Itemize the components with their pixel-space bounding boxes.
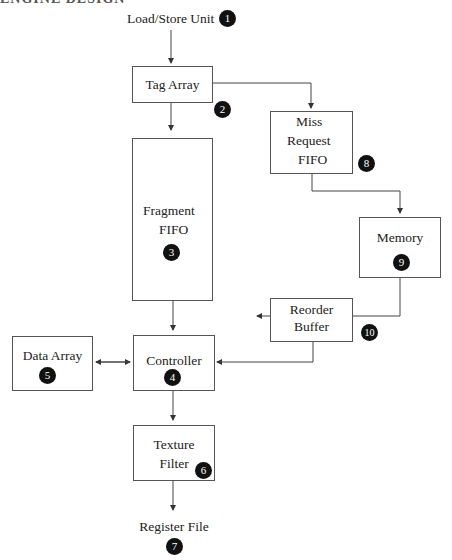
fragment-fifo-label-line2: FIFO <box>159 221 188 239</box>
miss-request-label-line1: Miss <box>296 113 322 131</box>
step-badge-6: 6 <box>195 462 212 479</box>
step-badge-9: 9 <box>393 254 410 271</box>
fragment-fifo-label-line1: Fragment <box>143 202 195 220</box>
tag-array-label: Tag Array <box>132 76 213 94</box>
memory-label: Memory <box>359 229 441 247</box>
data-array-label: Data Array <box>12 347 93 365</box>
miss-request-label-line2: Request <box>287 132 331 150</box>
step-badge-3: 3 <box>163 244 180 261</box>
reorder-buffer-label-line1: Reorder <box>270 301 353 319</box>
step-badge-2: 2 <box>214 101 231 118</box>
controller-label: Controller <box>133 352 215 370</box>
register-file-label: Register File <box>133 518 215 536</box>
texture-filter-label-line1: Texture <box>133 436 215 454</box>
load-store-unit-label: Load/Store Unit <box>127 10 214 28</box>
step-badge-7: 7 <box>166 538 183 555</box>
connector-arrows <box>0 0 452 560</box>
step-badge-10: 10 <box>361 324 378 341</box>
reorder-buffer-label-line2: Buffer <box>270 318 353 336</box>
step-badge-5: 5 <box>39 367 56 384</box>
miss-request-label-line3: FIFO <box>298 151 327 169</box>
step-badge-1: 1 <box>219 10 236 27</box>
step-badge-4: 4 <box>164 369 181 386</box>
step-badge-8: 8 <box>358 155 375 172</box>
